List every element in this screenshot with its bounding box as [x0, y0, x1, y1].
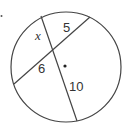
chord-x-10 [41, 16, 77, 121]
label-5: 5 [63, 20, 70, 35]
chord-diagram: x 5 6 10 [0, 0, 127, 127]
chord-5-6 [14, 17, 90, 84]
label-x: x [34, 28, 41, 43]
label-10: 10 [69, 79, 83, 94]
center-dot [63, 64, 66, 67]
label-6: 6 [38, 61, 45, 76]
corner-dot [1, 15, 3, 17]
